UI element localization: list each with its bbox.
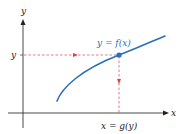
y-value-label: y — [10, 50, 17, 60]
curve-point — [116, 52, 121, 57]
y-axis-label: y — [20, 6, 27, 16]
down-arrow-icon — [117, 79, 121, 84]
x-value-label: x = g(y) — [101, 121, 138, 131]
inverse-function-diagram: y x y = f(x) y x = g(y) — [0, 0, 183, 134]
y-axis-arrow-icon — [21, 19, 26, 25]
right-arrow-icon — [73, 53, 78, 57]
function-label: y = f(x) — [96, 38, 131, 48]
x-axis-label: x — [171, 108, 176, 118]
x-axis-arrow-icon — [163, 111, 169, 116]
